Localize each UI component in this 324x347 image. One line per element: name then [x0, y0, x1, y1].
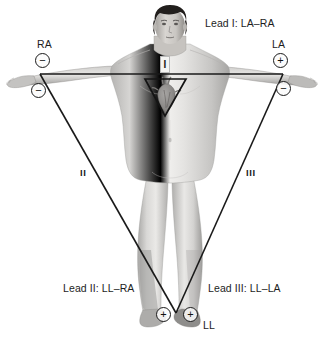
human-body-illustration — [0, 0, 324, 347]
lead-iii-roman-label: III — [246, 167, 256, 178]
torso — [111, 44, 230, 183]
electrode-ra-lead2-negative[interactable]: − — [31, 83, 46, 98]
electrode-ll-lead2-positive[interactable]: + — [156, 307, 171, 322]
ra-site-label: RA — [37, 39, 52, 50]
lead-iii-title: Lead III: LL–LA — [208, 283, 281, 294]
electrode-la-lead3-negative[interactable]: − — [276, 81, 291, 96]
left-hand — [288, 76, 317, 88]
ll-site-label: LL — [203, 320, 215, 331]
lead-ii-roman-label: II — [80, 167, 86, 178]
figure-silhouette — [7, 5, 318, 327]
lead-ii-title: Lead II: LL–RA — [63, 283, 134, 294]
electrode-la-positive[interactable]: + — [273, 53, 288, 68]
electrode-ra-negative[interactable]: − — [35, 53, 50, 68]
electrode-ll-lead3-positive[interactable]: + — [183, 307, 198, 322]
lead-i-title: Lead I: LA–RA — [205, 18, 275, 29]
einthoven-triangle-figure: Lead I: LA–RA Lead II: LL–RA Lead III: L… — [0, 0, 324, 347]
lead-i-chest-marker: I — [160, 56, 170, 73]
la-site-label: LA — [272, 39, 285, 50]
